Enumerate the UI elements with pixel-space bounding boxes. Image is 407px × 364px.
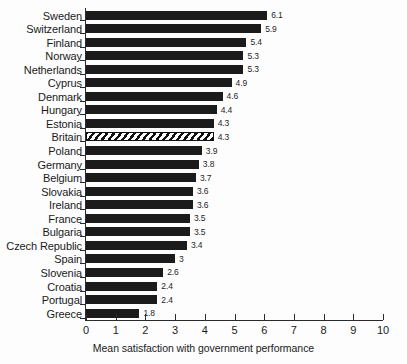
bar-denmark <box>86 92 223 101</box>
category-label-finland: Finland <box>47 37 82 49</box>
category-label-estonia: Estonia <box>46 118 82 130</box>
bar-value-label: 3.7 <box>200 174 212 183</box>
bar-value-label: 2.4 <box>161 282 173 291</box>
bar-value-label: 6.1 <box>271 11 283 20</box>
y-axis-tick <box>80 47 86 48</box>
y-axis-tick <box>80 291 86 292</box>
y-axis-tick <box>80 209 86 210</box>
chart-page: Sweden6.1Switzerland5.9Finland5.4Norway5… <box>0 0 407 364</box>
category-label-belgium: Belgium <box>43 172 82 184</box>
bar-value-label: 5.4 <box>250 38 262 47</box>
x-axis-tick <box>205 314 206 320</box>
bar-sweden <box>86 11 267 20</box>
x-axis-tick <box>264 314 265 320</box>
x-axis-tick <box>116 314 117 320</box>
x-axis-tick-label: 6 <box>254 324 274 337</box>
category-label-slovenia: Slovenia <box>41 267 82 279</box>
bar-value-label: 5.3 <box>247 52 259 61</box>
y-axis-tick <box>80 263 86 264</box>
bar-value-label: 4.6 <box>227 92 239 101</box>
bar-hungary <box>86 105 217 114</box>
bar-value-label: 3.6 <box>197 187 209 196</box>
x-axis-tick-label: 2 <box>135 324 155 337</box>
x-axis-tick <box>86 314 87 320</box>
y-axis-tick <box>80 33 86 34</box>
x-axis-tick <box>175 314 176 320</box>
y-axis-tick <box>80 114 86 115</box>
bar-britain <box>86 132 214 141</box>
bar-spain <box>86 254 175 263</box>
bar-value-label: 3.8 <box>203 160 215 169</box>
x-axis-tick-label: 3 <box>165 324 185 337</box>
y-axis-tick <box>80 196 86 197</box>
y-axis-tick <box>80 141 86 142</box>
x-axis-tick <box>235 314 236 320</box>
category-label-spain: Spain <box>54 253 82 265</box>
bar-value-label: 4.4 <box>221 106 233 115</box>
category-label-bulgaria: Bulgaria <box>42 226 82 238</box>
category-label-netherlands: Netherlands <box>24 64 82 76</box>
bar-slovenia <box>86 268 163 277</box>
bar-slovakia <box>86 187 193 196</box>
bar-value-label: 5.3 <box>247 65 259 74</box>
bar-value-label: 3.5 <box>194 228 206 237</box>
x-axis-tick-label: 8 <box>314 324 334 337</box>
x-axis-tick <box>324 314 325 320</box>
bar-value-label: 2.4 <box>161 296 173 305</box>
bar-netherlands <box>86 65 243 74</box>
x-axis-tick <box>353 314 354 320</box>
y-axis-tick <box>80 277 86 278</box>
category-label-switzerland: Switzerland <box>26 23 82 35</box>
x-axis-tick-label: 0 <box>76 324 96 337</box>
bar-bulgaria <box>86 227 190 236</box>
bar-value-label: 3.6 <box>197 201 209 210</box>
bar-value-label: 3.9 <box>206 147 218 156</box>
bar-value-label: 4.3 <box>218 133 230 142</box>
bar-czech-republic <box>86 241 187 250</box>
y-axis-tick <box>80 223 86 224</box>
x-axis-tick-label: 1 <box>106 324 126 337</box>
x-axis-tick-label: 4 <box>195 324 215 337</box>
bar-france <box>86 214 190 223</box>
category-label-norway: Norway <box>45 50 82 62</box>
bar-value-label: 2.6 <box>167 268 179 277</box>
x-axis-tick-label: 10 <box>373 324 393 337</box>
y-axis-tick <box>80 74 86 75</box>
bar-ireland <box>86 200 193 209</box>
y-axis-tick <box>80 236 86 237</box>
y-axis-tick <box>80 250 86 251</box>
bar-value-label: 5.9 <box>265 25 277 34</box>
y-axis-tick <box>80 87 86 88</box>
x-axis-title: Mean satisfaction with government perfor… <box>0 342 407 354</box>
category-label-germany: Germany <box>37 159 82 171</box>
bar-poland <box>86 146 202 155</box>
y-axis-tick <box>80 60 86 61</box>
y-axis-tick <box>80 304 86 305</box>
y-axis-tick <box>80 169 86 170</box>
bar-finland <box>86 38 246 47</box>
x-axis-tick <box>383 314 384 320</box>
bar-belgium <box>86 173 196 182</box>
bar-value-label: 3 <box>179 255 184 264</box>
x-axis-tick-label: 5 <box>225 324 245 337</box>
bar-value-label: 4.3 <box>218 119 230 128</box>
bar-greece <box>86 309 139 318</box>
y-axis-tick <box>80 182 86 183</box>
bar-portugal <box>86 295 157 304</box>
y-axis-tick <box>80 155 86 156</box>
bar-switzerland <box>86 24 261 33</box>
bar-value-label: 4.9 <box>236 79 248 88</box>
bar-chart-plot-area: Sweden6.1Switzerland5.9Finland5.4Norway5… <box>0 0 407 364</box>
category-label-poland: Poland <box>48 145 82 157</box>
category-label-portugal: Portugal <box>42 294 82 306</box>
bar-germany <box>86 160 199 169</box>
bar-croatia <box>86 282 157 291</box>
x-axis-tick <box>145 314 146 320</box>
bar-value-label: 3.5 <box>194 214 206 223</box>
category-label-czech-republic: Czech Republic <box>6 240 82 252</box>
category-label-slovakia: Slovakia <box>41 186 82 198</box>
category-label-france: France <box>48 213 82 225</box>
category-label-hungary: Hungary <box>41 104 82 116</box>
bar-estonia <box>86 119 214 128</box>
bar-cyprus <box>86 78 232 87</box>
